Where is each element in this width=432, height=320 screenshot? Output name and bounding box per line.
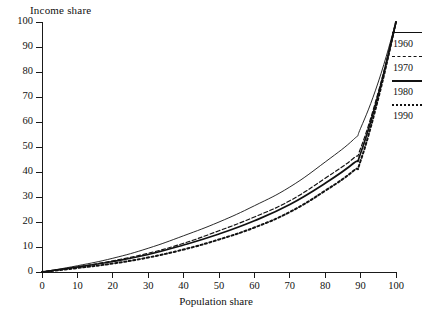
- x-axis-title: Population share: [0, 295, 432, 307]
- lorenz-curve-figure: Income share 0102030405060708090100 0102…: [0, 0, 432, 320]
- legend-item-1970[interactable]: 1970: [392, 54, 432, 78]
- legend-label: 1980: [393, 86, 413, 97]
- chart-curves: [0, 0, 432, 320]
- legend-item-1990[interactable]: 1990: [392, 102, 432, 126]
- legend-label: 1960: [393, 38, 413, 49]
- series-line-1980: [42, 22, 396, 272]
- legend-item-1980[interactable]: 1980: [392, 78, 432, 102]
- legend-label: 1990: [393, 110, 413, 121]
- chart-legend: 1960197019801990: [392, 30, 432, 126]
- legend-label: 1970: [393, 62, 413, 73]
- legend-item-1960[interactable]: 1960: [392, 30, 432, 54]
